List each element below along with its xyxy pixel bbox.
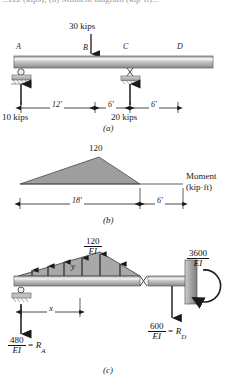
caption-c: (c): [103, 366, 113, 375]
moment-peak-label: 120: [89, 144, 103, 153]
load-intensity-fraction: 120 EI: [84, 236, 102, 256]
reaction-right-equals: = R: [166, 326, 182, 336]
figure-b: 120 Moment (kip·ft) 18' 6': [0, 142, 228, 234]
load-denominator: EI: [84, 246, 102, 256]
moment-denominator: EI: [187, 258, 209, 268]
distance-label-x: x: [47, 304, 55, 313]
dimension-label-6ft-1: 6': [106, 101, 116, 109]
reaction-left-expression: 480 EI = RA: [8, 335, 46, 355]
reaction-right-numerator: 600: [148, 322, 166, 331]
dimension-label-18ft: 18': [70, 197, 84, 205]
load-numerator: 120: [84, 237, 102, 246]
figure-c: 120 EI y x 3600 EI 480 EI = RA 600: [0, 238, 228, 378]
reaction-label-left: 10 kips: [2, 113, 28, 122]
figure-a: B 30 kips A C D 12' 6' 6' 10 kips 20 kip…: [0, 10, 228, 125]
dimension-label-6ft-2: 6': [149, 101, 159, 109]
reaction-label-right: 20 kips: [111, 113, 137, 122]
reaction-left-equals: = R: [26, 340, 42, 350]
reaction-right-denominator: EI: [148, 331, 166, 341]
moment-numerator: 3600: [187, 249, 209, 258]
node-label-c: C: [123, 43, 128, 51]
dimension-label-12ft: 12': [50, 101, 64, 109]
caption-a: (a): [103, 124, 114, 133]
node-label-a: A: [16, 43, 21, 51]
reaction-right-subscript: D: [181, 333, 186, 341]
reaction-right-expression: 600 EI = RD: [148, 321, 186, 341]
cropped-header-text: ...zzz (kips); (b) Moment diagram (kip·f…: [0, 0, 228, 9]
applied-moment-fraction: 3600 EI: [187, 248, 209, 268]
moment-axis-label-line1: Moment: [186, 172, 217, 181]
reaction-left-numerator: 480: [8, 336, 26, 345]
reaction-left-subscript: A: [41, 347, 45, 355]
point-load-label: 30 kips: [69, 22, 95, 31]
dimension-label-6ft-b: 6': [155, 197, 165, 205]
moment-axis-label-line2: (kip·ft): [186, 183, 212, 192]
ordinate-label-y: y: [71, 262, 75, 271]
reaction-left-denominator: EI: [8, 345, 26, 355]
figure-page: ...zzz (kips); (b) Moment diagram (kip·f…: [0, 0, 228, 378]
caption-b: (b): [103, 216, 114, 225]
node-label-b: B: [83, 44, 88, 52]
node-label-d: D: [177, 43, 183, 51]
